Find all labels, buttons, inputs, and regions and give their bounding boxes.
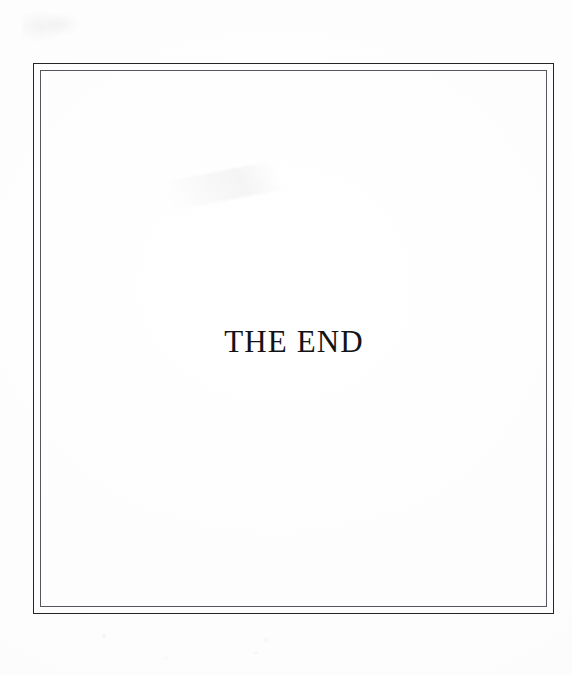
scan-streak-icon — [166, 159, 288, 211]
end-text: THE END — [224, 326, 363, 357]
scanned-page: THE END — [0, 0, 572, 675]
decorative-frame — [33, 63, 554, 614]
scan-specks-icon — [70, 620, 370, 668]
end-text-container: THE END — [41, 71, 547, 607]
decorative-frame-inner-rule — [40, 70, 547, 607]
scan-smudge-icon — [22, 11, 84, 45]
paper-texture — [0, 0, 572, 675]
